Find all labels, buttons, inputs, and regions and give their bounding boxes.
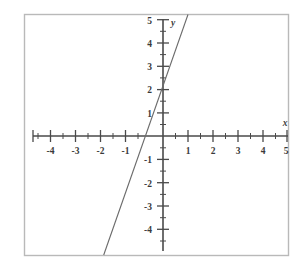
y-tick-label--3: -3 [144, 202, 152, 212]
x-tick-label-3: 3 [236, 146, 241, 156]
x-tick-label-4: 4 [261, 146, 266, 156]
x-tick-label-5: 5 [284, 146, 289, 156]
x-tick-label--2: -2 [97, 146, 105, 156]
y-tick-label--4: -4 [144, 225, 152, 235]
y-tick-label-1: 1 [147, 109, 152, 119]
y-tick-label-2: 2 [147, 85, 152, 95]
x-tick-label-1: 1 [186, 146, 191, 156]
y-tick-label--2: -2 [144, 179, 152, 189]
x-tick-label--1: -1 [122, 146, 130, 156]
graph-figure: -4 -3 -2 -1 1 2 3 4 5 5 4 3 2 1 -1 -2 -3… [0, 0, 308, 269]
x-tick-label--3: -3 [72, 146, 80, 156]
coordinate-plane-plot: -4 -3 -2 -1 1 2 3 4 5 5 4 3 2 1 -1 -2 -3… [0, 0, 308, 269]
y-axis-label: y [170, 18, 176, 28]
y-tick-label-3: 3 [147, 62, 152, 72]
x-tick-label--4: -4 [47, 146, 55, 156]
x-axis-label: x [282, 118, 288, 128]
y-tick-label-4: 4 [147, 39, 152, 49]
y-tick-label-5: 5 [147, 16, 152, 26]
y-tick-label--1: -1 [144, 155, 152, 165]
plot-frame [25, 15, 289, 256]
x-tick-label-2: 2 [211, 146, 216, 156]
